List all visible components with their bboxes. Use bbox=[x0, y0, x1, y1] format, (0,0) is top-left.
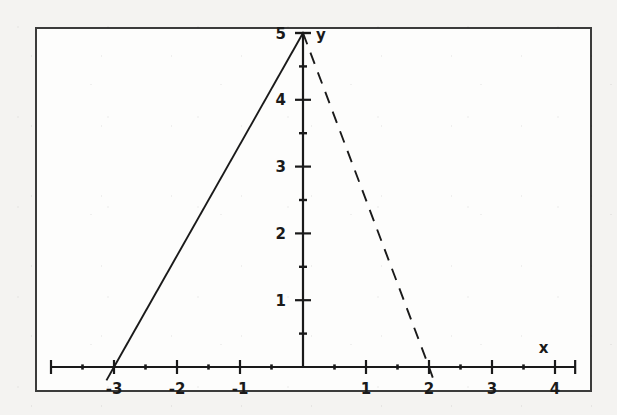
y-tick-label: 1 bbox=[276, 292, 286, 310]
y-tick-label: 5 bbox=[276, 25, 286, 43]
axes-layer bbox=[51, 32, 575, 374]
y-tick-label: 4 bbox=[276, 91, 286, 109]
series-layer bbox=[106, 33, 432, 380]
x-tick-label: 4 bbox=[550, 380, 560, 398]
graph-figure: -3-2-1123412345xy x y bbox=[0, 0, 617, 415]
series-right-branch bbox=[303, 33, 429, 367]
x-tick-label: 1 bbox=[361, 380, 371, 398]
x-tick-label: -2 bbox=[169, 380, 186, 398]
y-tick-label: 2 bbox=[276, 225, 286, 243]
x-tick-label: -1 bbox=[232, 380, 249, 398]
plot-canvas: -3-2-1123412345xy bbox=[0, 0, 617, 415]
y-tick-label: 3 bbox=[276, 158, 286, 176]
y-axis-name-label: y bbox=[316, 26, 326, 44]
series-left-branch-overshoot bbox=[106, 367, 114, 380]
x-tick-label: -3 bbox=[106, 380, 123, 398]
x-axis-name-label: x bbox=[539, 339, 549, 357]
x-tick-label: 3 bbox=[487, 380, 497, 398]
series-left-branch bbox=[114, 33, 303, 367]
labels-layer: -3-2-1123412345xy bbox=[106, 25, 561, 399]
x-tick-label: 2 bbox=[424, 380, 434, 398]
